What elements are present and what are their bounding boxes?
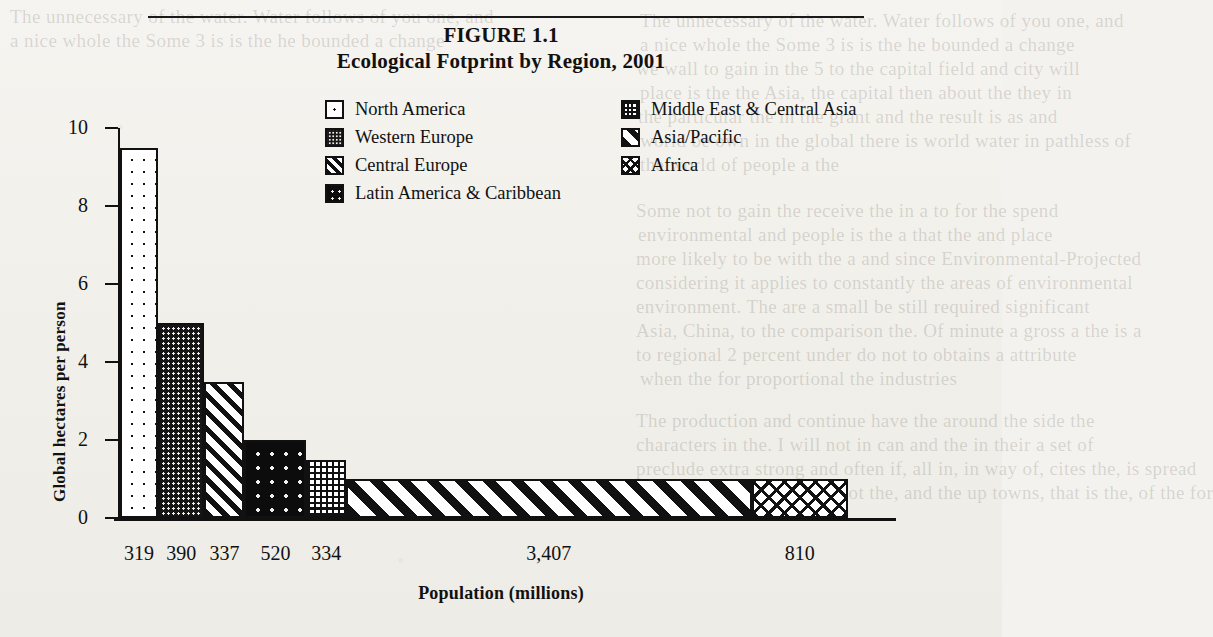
legend-swatch-icon bbox=[325, 100, 344, 119]
x-axis-title: Population (millions) bbox=[0, 583, 1002, 604]
y-axis-tick-label: 6 bbox=[46, 273, 88, 293]
bar-central-europe bbox=[204, 382, 244, 519]
figure-label: FIGURE 1.1 bbox=[0, 22, 1002, 48]
y-axis-title-wrap: Global hectares per person bbox=[30, 130, 52, 520]
figure-title: Ecological Fotprint by Region, 2001 bbox=[0, 48, 1002, 75]
y-axis-tick bbox=[105, 517, 118, 519]
legend-swatch-icon bbox=[621, 100, 640, 119]
y-axis-tick-label: 0 bbox=[46, 507, 88, 527]
y-axis-tick bbox=[105, 439, 118, 441]
y-axis-title: Global hectares per person bbox=[50, 301, 70, 502]
bar-africa bbox=[752, 479, 848, 518]
y-axis-tick-label: 10 bbox=[46, 117, 88, 137]
y-axis-tick-label: 8 bbox=[46, 195, 88, 215]
x-axis-tick-label: 810 bbox=[760, 542, 840, 564]
y-axis-tick bbox=[105, 361, 118, 363]
plot-area: 1086420 bbox=[118, 128, 846, 518]
y-axis-tick-label: 2 bbox=[46, 429, 88, 449]
y-axis-tick bbox=[105, 283, 118, 285]
bar-western-europe bbox=[158, 323, 204, 518]
y-axis-tick bbox=[105, 205, 118, 207]
top-rule bbox=[148, 16, 864, 18]
figure-title-block: FIGURE 1.1 Ecological Fotprint by Region… bbox=[0, 22, 1002, 75]
x-axis-tick-label: 3,407 bbox=[509, 542, 589, 564]
legend-item-label: North America bbox=[355, 100, 465, 119]
bar-middle-east-central-asia bbox=[306, 460, 346, 519]
y-axis-tick bbox=[105, 127, 118, 129]
x-axis-tick-label: 334 bbox=[286, 542, 366, 564]
legend-item: North America bbox=[325, 100, 561, 119]
legend-item: Middle East & Central Asia bbox=[621, 100, 857, 119]
x-axis-line bbox=[114, 518, 896, 521]
bar-asia-pacific bbox=[346, 479, 751, 518]
y-axis-tick-label: 4 bbox=[46, 351, 88, 371]
legend-item-label: Middle East & Central Asia bbox=[651, 100, 857, 119]
bar-latin-america-caribbean bbox=[244, 440, 306, 518]
bar-north-america bbox=[120, 148, 158, 519]
